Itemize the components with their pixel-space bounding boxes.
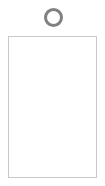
- ring-icon: [44, 8, 63, 27]
- card-body[interactable]: [8, 36, 97, 178]
- card-body-content: [9, 37, 96, 177]
- tag-graphic-canvas: [0, 0, 105, 186]
